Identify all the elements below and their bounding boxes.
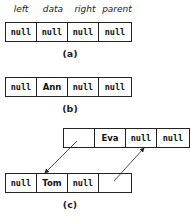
arrow-left-child-pointer [45,141,77,173]
arrow-parent-pointer [114,148,144,181]
pointer-arrows [0,0,191,218]
